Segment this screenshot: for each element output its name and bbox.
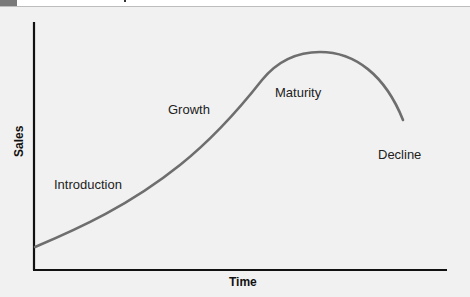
stage-label-growth: Growth	[168, 102, 210, 117]
stage-label-maturity: Maturity	[275, 85, 321, 100]
sales-curve	[35, 52, 403, 247]
x-axis-label: Time	[229, 275, 257, 289]
stage-label-decline: Decline	[378, 147, 421, 162]
y-axis-label: Sales	[12, 126, 26, 157]
stage-label-introduction: Introduction	[54, 177, 122, 192]
